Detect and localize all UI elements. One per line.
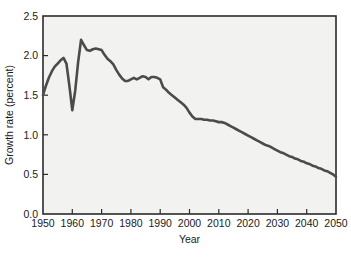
x-tick-label: 2030: [266, 217, 290, 229]
x-axis-tick-labels: 1950196019701980199020002010202020302040…: [31, 217, 348, 229]
x-tick-label: 2050: [324, 217, 348, 229]
y-tick-label: 2.5: [23, 10, 38, 22]
y-tick-label: 0.0: [23, 208, 38, 220]
x-tick-label: 2010: [207, 217, 231, 229]
x-tick-label: 1960: [61, 217, 85, 229]
y-tick-label: 0.5: [23, 168, 38, 180]
x-tick-label: 1990: [149, 217, 173, 229]
x-tick-label: 1970: [90, 217, 114, 229]
x-axis-title: Year: [179, 233, 201, 245]
x-tick-label: 1980: [119, 217, 143, 229]
x-tick-label: 2000: [178, 217, 202, 229]
y-tick-label: 1.0: [23, 129, 38, 141]
plot-background: [43, 16, 336, 214]
y-axis-tick-labels: 0.00.51.01.52.02.5: [23, 10, 38, 220]
y-axis-title: Growth rate (percent): [3, 65, 15, 165]
growth-rate-line-chart: 1950196019701980199020002010202020302040…: [0, 0, 351, 259]
x-tick-label: 2040: [295, 217, 319, 229]
y-tick-label: 1.5: [23, 89, 38, 101]
chart-figure: 1950196019701980199020002010202020302040…: [0, 0, 351, 259]
y-tick-label: 2.0: [23, 49, 38, 61]
x-tick-label: 2020: [236, 217, 260, 229]
